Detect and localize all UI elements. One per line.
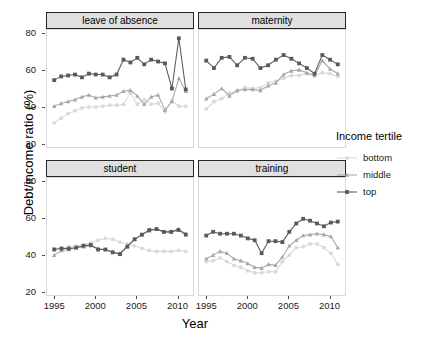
legend-title: Income tertile <box>336 130 422 142</box>
y-tick-mark <box>42 218 45 219</box>
y-tick-label: 60 <box>12 212 36 223</box>
series-line-top <box>206 55 338 74</box>
facet-strip-student: student <box>46 160 194 177</box>
y-tick-label: 20 <box>12 286 36 297</box>
y-tick-mark <box>42 33 45 34</box>
x-tick-mark <box>136 296 137 299</box>
facet-strip-label: student <box>104 163 137 174</box>
legend-item-middle[interactable]: middle <box>336 166 422 183</box>
x-tick-mark <box>206 296 207 299</box>
chart-root: Debt/income ratio (%) Year leave of abse… <box>0 0 422 339</box>
series-layer <box>46 177 194 296</box>
x-tick-mark <box>178 296 179 299</box>
x-tick-label: 2000 <box>230 300 264 311</box>
y-tick-label: 40 <box>12 101 36 112</box>
facet-strip-label: maternity <box>251 15 292 26</box>
series-line-bottom <box>206 244 338 273</box>
x-tick-label: 2005 <box>271 300 305 311</box>
facet-strip-label: leave of absence <box>82 15 158 26</box>
legend-key-top-icon <box>336 186 358 198</box>
y-tick-mark <box>42 292 45 293</box>
y-tick-mark <box>42 181 45 182</box>
legend-key-middle-icon <box>336 169 358 181</box>
y-tick-mark <box>42 255 45 256</box>
y-tick-mark <box>42 70 45 71</box>
x-tick-label: 2010 <box>313 300 347 311</box>
x-tick-mark <box>330 296 331 299</box>
x-tick-mark <box>95 296 96 299</box>
x-tick-mark <box>288 296 289 299</box>
y-tick-label: 20 <box>12 138 36 149</box>
x-tick-label: 1995 <box>37 300 71 311</box>
facet-strip-leave-of-absence: leave of absence <box>46 12 194 29</box>
series-layer <box>198 29 346 148</box>
legend-label-middle: middle <box>363 169 391 180</box>
x-axis-title: Year <box>40 316 350 331</box>
y-tick-label: 80 <box>12 175 36 186</box>
legend: Income tertile bottom middle top <box>336 130 422 200</box>
legend-label-top: top <box>363 186 376 197</box>
y-tick-label: 40 <box>12 249 36 260</box>
legend-key-bottom-icon <box>336 152 358 164</box>
series-layer <box>198 177 346 296</box>
series-layer <box>46 29 194 148</box>
y-tick-label: 60 <box>12 64 36 75</box>
y-tick-mark <box>42 144 45 145</box>
legend-item-bottom[interactable]: bottom <box>336 149 422 166</box>
facet-strip-label: training <box>256 163 289 174</box>
panel-training <box>198 177 346 296</box>
x-tick-label: 2005 <box>119 300 153 311</box>
y-tick-label: 80 <box>12 27 36 38</box>
facet-strip-maternity: maternity <box>198 12 346 29</box>
legend-label-bottom: bottom <box>363 152 392 163</box>
facet-strip-training: training <box>198 160 346 177</box>
legend-item-top[interactable]: top <box>336 183 422 200</box>
panel-leave-of-absence <box>46 29 194 148</box>
x-tick-label: 1995 <box>189 300 223 311</box>
x-tick-label: 2000 <box>78 300 112 311</box>
y-tick-mark <box>42 107 45 108</box>
x-tick-mark <box>54 296 55 299</box>
panel-student <box>46 177 194 296</box>
x-tick-mark <box>247 296 248 299</box>
panel-maternity <box>198 29 346 148</box>
series-line-bottom <box>206 73 338 109</box>
